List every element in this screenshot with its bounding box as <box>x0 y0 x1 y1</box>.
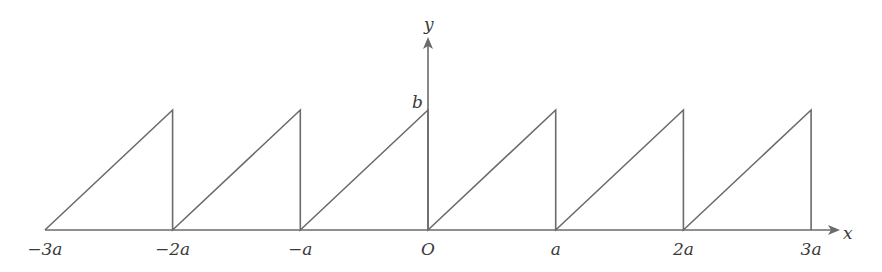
x-axis-label: x <box>843 223 853 243</box>
x-tick-label: −3a <box>27 239 62 259</box>
x-tick-label: −2a <box>155 239 190 259</box>
y-axis-label: y <box>423 14 434 34</box>
amplitude-label: b <box>412 92 423 112</box>
x-tick-label: 3a <box>801 239 822 259</box>
x-tick-label: 2a <box>672 239 694 259</box>
x-tick-labels: −3a−2a−aOa2a3a <box>27 239 821 259</box>
x-tick-label: a <box>551 239 561 259</box>
x-tick-label: −a <box>288 239 312 259</box>
x-tick-label: O <box>421 239 435 259</box>
sawtooth-diagram: x y b −3a−2a−aOa2a3a <box>0 0 882 272</box>
